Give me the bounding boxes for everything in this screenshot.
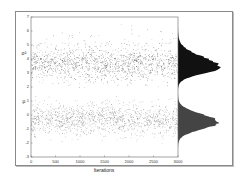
y-tick-label: 0 xyxy=(27,112,30,117)
y-tick-label: 1 xyxy=(27,98,30,103)
trace-points xyxy=(31,24,179,144)
x-tick-label: 1500 xyxy=(100,159,110,164)
y-tick-label: 6 xyxy=(27,28,30,33)
y-tick-label: -2 xyxy=(25,140,29,145)
y-tick-label: 5 xyxy=(27,42,30,47)
x-tick-label: 0 xyxy=(30,159,33,164)
y-tick-label: -1 xyxy=(25,126,29,131)
marginal-histograms xyxy=(178,23,221,148)
trace-plot-chart: -3-2-101234567 050010001500200025003000 … xyxy=(0,0,252,183)
y-tick-label: 7 xyxy=(27,14,30,19)
y-tick-label: 4 xyxy=(27,56,30,61)
y-tick-label: 2 xyxy=(27,84,30,89)
x-tick-label: 3000 xyxy=(174,159,184,164)
mu-label: μ xyxy=(23,98,26,104)
x-tick-label: 500 xyxy=(52,159,59,164)
x-tick-label: 1000 xyxy=(76,159,86,164)
x-tick-label: 2500 xyxy=(149,159,159,164)
sigma-label: σ² xyxy=(22,50,27,56)
plot-area xyxy=(31,17,178,157)
x-axis-label: Iterations xyxy=(94,167,115,173)
y-axis: -3-2-101234567 xyxy=(25,14,32,159)
y-tick-label: 3 xyxy=(27,70,30,75)
x-tick-label: 2000 xyxy=(125,159,135,164)
